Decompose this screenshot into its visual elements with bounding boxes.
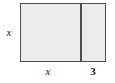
left-width-label: x [41,66,55,77]
geometry-figure: x x 3 [0,0,115,83]
vertical-divider-line [80,3,82,62]
outer-rectangle [20,3,106,62]
right-width-label: 3 [86,66,100,77]
height-label: x [2,27,16,38]
